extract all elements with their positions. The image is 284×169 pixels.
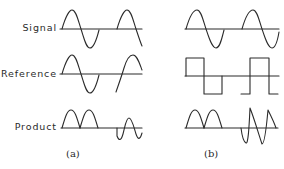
- waveform-diagram: [0, 0, 284, 169]
- panel-a-reference-waveform: [60, 55, 142, 93]
- panel-b-product-waveform: [185, 108, 278, 144]
- panel-b-signal-waveform: [185, 10, 279, 48]
- panel-a-product-waveform: [61, 110, 142, 140]
- panel-b-reference-waveform: [185, 58, 279, 94]
- panel-b: [185, 10, 279, 144]
- panel-a: [60, 10, 142, 140]
- panel-a-signal-waveform: [60, 10, 142, 48]
